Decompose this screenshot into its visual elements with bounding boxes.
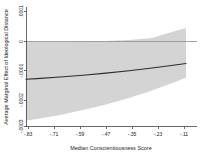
chart-container: .0001 0 -.0001 -.0002 -.0003 -.83 -.71 -…	[0, 0, 203, 156]
x-tick-label: -.47	[102, 131, 111, 137]
y-tick-label: -.0002	[18, 93, 24, 107]
x-tick-label: -.11	[180, 131, 188, 137]
x-tick-label: -.83	[24, 131, 33, 137]
y-tick-label: 0	[18, 40, 24, 43]
x-tick-label: -.59	[76, 131, 85, 137]
y-tick-label: .0001	[18, 5, 24, 18]
y-axis-title: Average Marginal Effect of Ideological D…	[3, 9, 9, 124]
x-tick-label: -.35	[128, 131, 137, 137]
x-tick-label: -.71	[50, 131, 59, 137]
marginal-effects-plot: .0001 0 -.0001 -.0002 -.0003 -.83 -.71 -…	[0, 0, 203, 156]
y-tick-label: -.0001	[18, 63, 24, 77]
x-axis-title: Median Conscientiousness Score	[70, 145, 152, 151]
x-tick-label: -.23	[154, 131, 163, 137]
